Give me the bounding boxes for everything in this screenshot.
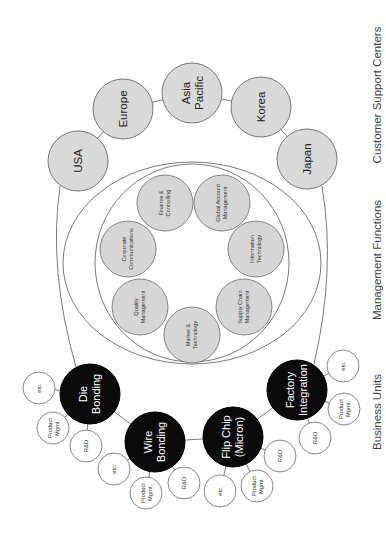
node-label-line: Corporate	[121, 237, 127, 262]
node-label-line: Technology	[256, 235, 262, 264]
business-unit-die-bonding[interactable]: DieBonding	[60, 364, 120, 424]
section-labels: Customer Support CentersManagement Funct…	[371, 26, 383, 450]
node-label-line: Supply Chain	[237, 290, 243, 323]
customer-center-asia-pacific[interactable]: AsiaPacific	[162, 63, 222, 123]
node-label-line: Mgmt.	[345, 401, 351, 417]
node-label: USA	[72, 149, 84, 173]
node-label-line: R&D	[181, 477, 187, 489]
node-label-line: etc.	[111, 464, 117, 474]
node-label-line: Integration	[297, 364, 309, 416]
node-label-line: Flip Chip	[220, 415, 232, 458]
customer-center-japan[interactable]: Japan	[277, 129, 337, 189]
sub-unit-r-d[interactable]: R&D	[264, 440, 296, 472]
node-label-line: Mgmt.	[147, 485, 153, 501]
section-label-customer-support-centers: Customer Support Centers	[371, 26, 383, 163]
management-function-quality-management[interactable]: QualityManagement	[112, 279, 168, 335]
sub-unit-etc[interactable]: etc.	[98, 453, 130, 485]
organization-diagram: USAEuropeAsiaPacificKoreaJapan Finance &…	[0, 0, 386, 545]
outer-ring-arc-left	[56, 186, 76, 367]
node-label-line: Management	[244, 290, 250, 323]
customer-center-europe[interactable]: Europe	[93, 79, 153, 139]
management-function-market-technology[interactable]: Market &Technology	[164, 307, 220, 363]
node-label: etc.	[340, 361, 346, 371]
node-label: Flip Chip(Micron)	[220, 415, 245, 458]
node-label-line: etc.	[340, 361, 346, 371]
node-label-line: Factory	[284, 371, 296, 408]
node-label: ProductMgmt.	[47, 418, 60, 438]
management-function-corporate-communications[interactable]: CorporateCommunications	[100, 221, 156, 277]
node-label-line: Asia	[180, 81, 192, 104]
node-label-line: R&D	[312, 432, 318, 444]
sub-unit-product-mgmt[interactable]: ProductMgmt.	[328, 393, 360, 425]
node-label: Europe	[117, 90, 129, 127]
management-function-global-account-management[interactable]: Global AccountManagement	[194, 175, 250, 231]
sub-unit-r-d[interactable]: R&D	[299, 422, 331, 454]
business-unit-wire-bonding[interactable]: WireBonding	[125, 412, 185, 472]
node-label: Global AccountManagement	[215, 184, 228, 222]
node-label-line: Management	[222, 186, 228, 219]
node-label: Korea	[255, 91, 267, 122]
node-label-line: (Micron)	[233, 417, 245, 457]
node-label: InformationTechnology	[249, 235, 262, 264]
customer-center-korea[interactable]: Korea	[231, 77, 291, 137]
node-label: etc.	[111, 464, 117, 474]
node-label-line: R&D	[277, 450, 283, 462]
sub-unit-etc[interactable]: etc.	[204, 475, 236, 507]
node-label: etc.	[217, 486, 223, 496]
node-label-line: Technology	[192, 321, 198, 350]
node-label: R&D	[312, 432, 318, 444]
node-label-line: Product	[251, 476, 257, 496]
node-label-line: Bonding	[155, 422, 167, 462]
node-label-line: Wire	[142, 431, 154, 454]
node-label-line: Controlling	[165, 190, 171, 217]
node-label: Supply ChainManagement	[237, 290, 250, 323]
sub-unit-etc[interactable]: etc.	[23, 372, 55, 404]
sub-unit-r-d[interactable]: R&D	[70, 430, 102, 462]
node-label: Finance &Controlling	[158, 190, 171, 217]
node-label-line: Finance &	[158, 190, 164, 215]
sub-unit-product-mgmt[interactable]: ProductMgmt.	[37, 412, 69, 444]
business-unit-flip-chip-micron[interactable]: Flip Chip(Micron)	[203, 407, 263, 467]
node-label-line: Communications	[128, 228, 134, 270]
node-label-line: Korea	[255, 91, 267, 122]
node-label: Market &Technology	[185, 321, 198, 350]
node-label-line: Management	[140, 290, 146, 323]
node-label-line: Die	[77, 386, 89, 403]
sub-unit-etc[interactable]: etc.	[327, 350, 359, 382]
management-function-information-technology[interactable]: InformationTechnology	[228, 221, 284, 277]
section-label-management-functions: Management Functions	[371, 200, 383, 320]
node-label-line: etc.	[36, 383, 42, 393]
section-label-business-units: Business Units	[371, 374, 383, 450]
node-label: etc.	[36, 383, 42, 393]
node-label-line: Mgmt.	[54, 420, 60, 436]
management-function-supply-chain-management[interactable]: Supply ChainManagement	[216, 279, 272, 335]
node-label-line: Pacific	[193, 76, 205, 110]
node-label: R&D	[277, 450, 283, 462]
customer-support-centers: USAEuropeAsiaPacificKoreaJapan	[48, 63, 337, 191]
node-label-line: Europe	[117, 90, 129, 127]
node-label-line: Mgmt.	[258, 478, 264, 494]
node-label: R&D	[83, 440, 89, 452]
node-label: FactoryIntegration	[284, 364, 309, 416]
node-label-line: Japan	[301, 143, 313, 174]
sub-unit-product-mgmt[interactable]: ProductMgmt.	[130, 477, 162, 509]
customer-center-usa[interactable]: USA	[48, 131, 108, 191]
node-label-line: Product	[338, 399, 344, 419]
outer-ring-arc-right	[314, 186, 327, 364]
node-label: ProductMgmt.	[338, 399, 351, 419]
node-label: Japan	[301, 143, 313, 174]
node-label-line: Global Account	[215, 184, 221, 222]
node-label-line: Product	[47, 418, 53, 438]
business-units: etc.ProductMgmt.R&DDieBondingetc.Product…	[23, 350, 360, 509]
management-function-finance-controlling[interactable]: Finance &Controlling	[137, 175, 193, 231]
node-label-line: USA	[72, 149, 84, 173]
sub-unit-product-mgmt[interactable]: ProductMgmt.	[241, 470, 273, 502]
node-label-line: Information	[249, 235, 255, 263]
node-label-line: Quality	[133, 298, 139, 316]
node-label-line: R&D	[83, 440, 89, 452]
node-label-line: Product	[140, 483, 146, 503]
business-unit-factory-integration[interactable]: FactoryIntegration	[267, 360, 327, 420]
node-label: ProductMgmt.	[140, 483, 153, 503]
sub-unit-r-d[interactable]: R&D	[168, 467, 200, 499]
node-label: R&D	[181, 477, 187, 489]
